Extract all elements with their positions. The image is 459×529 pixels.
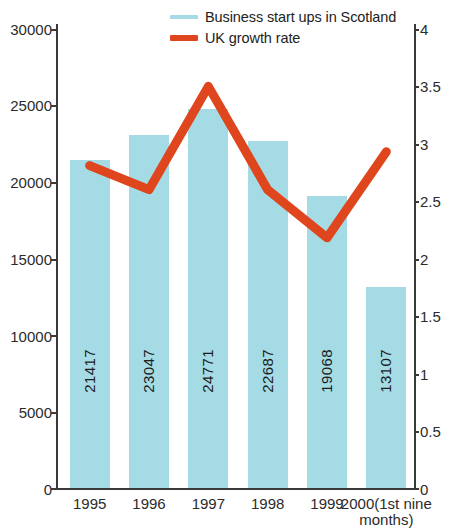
y2-axis-tick-label: 3: [420, 137, 428, 152]
plot-area: 214172304724771226871906813107 199519961…: [56, 24, 416, 494]
x-axis-label: 2000(1st nine months): [340, 496, 433, 528]
y-axis-tick-label: 0: [0, 482, 52, 497]
y2-axis-tick-label: 1: [420, 367, 428, 382]
y2-axis-tick-label: 1.5: [420, 309, 441, 324]
y2-axis-tick-label: 2.5: [420, 194, 441, 209]
legend-label-bars: Business start ups in Scotland: [205, 9, 396, 25]
y2-axis-tick-label: 0.5: [420, 424, 441, 439]
growth-rate-line: [90, 86, 387, 237]
y-axis-tick-label: 10000: [0, 329, 52, 344]
y-axis-tick-label: 25000: [0, 98, 52, 113]
chart-container: Business start ups in Scotland UK growth…: [0, 0, 459, 529]
growth-rate-line-layer: [56, 24, 416, 494]
y-axis-tick-label: 20000: [0, 175, 52, 190]
y2-axis-tick-label: 4: [420, 22, 428, 37]
y-axis-tick-label: 30000: [0, 22, 52, 37]
y2-axis-tick-label: 2: [420, 252, 428, 267]
y2-axis-tick-label: 3.5: [420, 79, 441, 94]
y-axis-tick-label: 15000: [0, 252, 52, 267]
legend-swatch-bars-icon: [170, 15, 198, 19]
y-axis-tick-label: 5000: [0, 405, 52, 420]
